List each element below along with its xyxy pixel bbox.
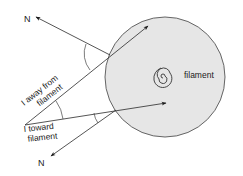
angle-arc-bottom — [94, 113, 98, 123]
normal-top-arrow — [36, 17, 110, 55]
angle-arc-top — [84, 44, 90, 70]
angle-arc-origin — [56, 101, 63, 119]
n-label-bottom: N — [38, 158, 45, 168]
n-label-top: N — [24, 14, 31, 24]
filament-geometry-diagram: N N I away from filament I toward filame… — [0, 0, 243, 176]
filament-label: filament — [184, 70, 214, 80]
normal-bottom-arrow — [51, 110, 116, 156]
toward-label-line2: filament — [27, 130, 58, 143]
